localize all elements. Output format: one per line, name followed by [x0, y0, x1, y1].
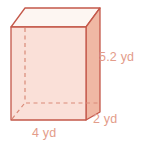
prism-figure: 5.2 yd 4 yd 2 yd	[0, 0, 143, 146]
prism-top-face	[11, 8, 100, 27]
prism-drawing	[0, 0, 143, 146]
dimension-label-width: 4 yd	[32, 127, 56, 140]
dimension-label-height: 5.2 yd	[99, 51, 134, 64]
dimension-label-depth: 2 yd	[93, 113, 117, 126]
